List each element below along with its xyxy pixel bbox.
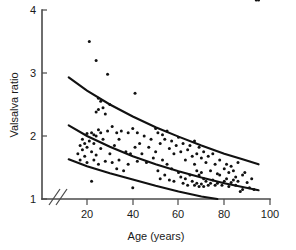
data-point bbox=[236, 161, 239, 164]
data-point bbox=[236, 180, 239, 183]
data-point bbox=[83, 142, 86, 145]
data-point bbox=[90, 180, 93, 183]
data-point bbox=[150, 138, 153, 141]
x-axis-break-icon bbox=[49, 189, 67, 205]
data-point bbox=[140, 152, 143, 155]
valsalva-ratio-scatter-figure: 4 3 2 1 20 40 60 80 100 Age (years) Vals… bbox=[0, 0, 296, 250]
data-point bbox=[95, 135, 98, 138]
data-point bbox=[99, 147, 102, 150]
data-point bbox=[195, 182, 198, 185]
data-point bbox=[225, 177, 228, 180]
data-point bbox=[257, 0, 260, 2]
data-point bbox=[232, 179, 235, 182]
data-point bbox=[127, 131, 130, 134]
data-point bbox=[204, 180, 207, 183]
x-tick-label-40: 40 bbox=[127, 208, 139, 220]
data-point bbox=[248, 186, 251, 189]
data-point bbox=[170, 167, 173, 170]
y-tick-label-1: 1 bbox=[30, 193, 36, 205]
data-point bbox=[177, 171, 180, 174]
data-point bbox=[115, 131, 118, 134]
scatter-points-layer bbox=[76, 0, 260, 193]
data-point bbox=[216, 182, 219, 185]
data-point bbox=[166, 129, 169, 132]
x-tick-label-60: 60 bbox=[172, 208, 184, 220]
data-point bbox=[207, 155, 210, 158]
data-point bbox=[234, 184, 237, 187]
data-point bbox=[76, 152, 79, 155]
data-point bbox=[81, 138, 84, 141]
data-point bbox=[79, 144, 82, 147]
data-point bbox=[218, 158, 221, 161]
data-point bbox=[168, 147, 171, 150]
data-point bbox=[191, 180, 194, 183]
data-point bbox=[154, 150, 157, 153]
data-point bbox=[188, 174, 191, 177]
data-point bbox=[220, 184, 223, 187]
data-point bbox=[202, 185, 205, 188]
data-point bbox=[95, 59, 98, 62]
x-axis-title: Age (years) bbox=[128, 230, 185, 242]
data-point bbox=[115, 167, 118, 170]
x-tick-label-100: 100 bbox=[261, 208, 279, 220]
data-point bbox=[209, 169, 212, 172]
axes-group bbox=[42, 10, 270, 199]
data-point bbox=[104, 112, 107, 115]
data-point bbox=[230, 165, 233, 168]
data-point bbox=[243, 171, 246, 174]
data-point bbox=[227, 171, 230, 174]
data-point bbox=[92, 142, 95, 145]
data-point bbox=[90, 150, 93, 153]
chart-canvas: 4 3 2 1 20 40 60 80 100 Age (years) Vals… bbox=[0, 0, 296, 250]
data-point bbox=[182, 142, 185, 145]
data-point bbox=[241, 174, 244, 177]
data-point bbox=[250, 177, 253, 180]
data-point bbox=[108, 103, 111, 106]
data-point bbox=[200, 171, 203, 174]
data-point bbox=[122, 169, 125, 172]
data-point bbox=[83, 155, 86, 158]
data-point bbox=[218, 174, 221, 177]
data-point bbox=[106, 73, 109, 76]
data-point bbox=[198, 174, 201, 177]
data-point bbox=[241, 188, 244, 191]
data-point bbox=[136, 131, 139, 134]
data-point bbox=[113, 144, 116, 147]
data-point bbox=[147, 146, 150, 149]
data-point bbox=[193, 163, 196, 166]
y-tick-label-4: 4 bbox=[30, 4, 36, 16]
data-point bbox=[227, 185, 230, 188]
y-axis-title: Valsalva ratio bbox=[8, 72, 20, 137]
data-point bbox=[127, 163, 130, 166]
data-point bbox=[211, 152, 214, 155]
data-point bbox=[184, 177, 187, 180]
x-axis-ticks: 20 40 60 80 100 bbox=[81, 199, 279, 220]
data-point bbox=[232, 169, 235, 172]
data-point bbox=[168, 179, 171, 182]
data-point bbox=[184, 158, 187, 161]
data-point bbox=[170, 140, 173, 143]
data-point bbox=[223, 180, 226, 183]
data-point bbox=[88, 140, 91, 143]
y-tick-label-3: 3 bbox=[30, 67, 36, 79]
data-point bbox=[134, 146, 137, 149]
data-point bbox=[145, 161, 148, 164]
data-point bbox=[138, 142, 141, 145]
data-point bbox=[179, 150, 182, 153]
data-point bbox=[111, 125, 114, 128]
data-point bbox=[97, 163, 100, 166]
data-point bbox=[118, 138, 121, 141]
data-point bbox=[81, 148, 84, 151]
data-point bbox=[131, 186, 134, 189]
data-point bbox=[234, 175, 237, 178]
data-point bbox=[102, 106, 105, 109]
x-tick-label-20: 20 bbox=[81, 208, 93, 220]
data-point bbox=[97, 128, 100, 131]
data-point bbox=[211, 179, 214, 182]
data-point bbox=[104, 160, 107, 163]
data-point bbox=[163, 174, 166, 177]
data-point bbox=[97, 97, 100, 100]
data-point bbox=[131, 127, 134, 130]
data-point bbox=[143, 135, 146, 138]
data-point bbox=[223, 167, 226, 170]
